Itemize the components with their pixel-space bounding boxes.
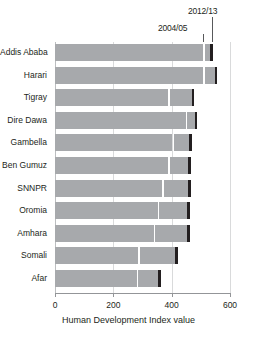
bar-segment-growth bbox=[170, 89, 192, 106]
category-label-harari: Harari bbox=[0, 67, 51, 84]
category-label-addis-ababa: Addis Ababa bbox=[0, 44, 51, 61]
bar-segment-growth bbox=[170, 157, 188, 174]
bar-segment-growth bbox=[155, 225, 187, 242]
bar-segment-2004-05 bbox=[55, 225, 154, 242]
x-tick-label-400: 400 bbox=[165, 300, 179, 310]
bar-endcap-2012-13 bbox=[189, 134, 192, 151]
series-callout-2004-05: 2004/05 bbox=[158, 24, 187, 33]
x-axis-line bbox=[55, 293, 231, 294]
bar-group bbox=[55, 157, 230, 174]
bar-segment-2004-05 bbox=[55, 89, 168, 106]
category-label-dire-dawa: Dire Dawa bbox=[0, 112, 51, 129]
bar-endcap-2012-13 bbox=[192, 89, 195, 106]
bar-endcap-2012-13 bbox=[210, 44, 213, 61]
x-tick-label-0: 0 bbox=[53, 300, 58, 310]
bar-group bbox=[55, 44, 230, 61]
bar-segment-2004-05 bbox=[55, 67, 203, 84]
x-tick-label-600: 600 bbox=[223, 300, 237, 310]
bar-segment-growth bbox=[187, 112, 195, 129]
bar-segment-growth bbox=[164, 180, 188, 197]
gridline-600 bbox=[230, 42, 231, 293]
x-tick-200 bbox=[113, 293, 114, 297]
bar-group bbox=[55, 270, 230, 287]
series-callout-2004-05-leader-line bbox=[203, 34, 204, 42]
bar-segment-2004-05 bbox=[55, 134, 172, 151]
bar-group bbox=[55, 112, 230, 129]
x-tick-400 bbox=[172, 293, 173, 297]
x-tick-0 bbox=[55, 293, 56, 297]
category-label-tigray: Tigray bbox=[0, 89, 51, 106]
bar-endcap-2012-13 bbox=[215, 67, 218, 84]
x-tick-label-200: 200 bbox=[106, 300, 120, 310]
category-label-snnpr: SNNPR bbox=[0, 180, 51, 197]
bar-group bbox=[55, 180, 230, 197]
category-label-ben-gumuz: Ben Gumuz bbox=[0, 157, 51, 174]
bar-endcap-2012-13 bbox=[188, 180, 191, 197]
bar-endcap-2012-13 bbox=[188, 157, 191, 174]
bar-group bbox=[55, 67, 230, 84]
category-label-afar: Afar bbox=[0, 270, 51, 287]
bar-segment-growth bbox=[205, 67, 215, 84]
bar-segment-2004-05 bbox=[55, 247, 138, 264]
bar-segment-2004-05 bbox=[55, 180, 162, 197]
bar-group bbox=[55, 247, 230, 264]
category-label-oromia: Oromia bbox=[0, 202, 51, 219]
bar-segment-2004-05 bbox=[55, 270, 137, 287]
series-callout-2012-13: 2012/13 bbox=[188, 7, 217, 16]
bar-endcap-2012-13 bbox=[187, 202, 190, 219]
bar-endcap-2012-13 bbox=[158, 270, 161, 287]
bar-group bbox=[55, 225, 230, 242]
x-tick-600 bbox=[230, 293, 231, 297]
bar-group bbox=[55, 134, 230, 151]
bar-segment-growth bbox=[159, 202, 187, 219]
x-axis-title: Human Development Index value bbox=[0, 315, 257, 325]
bar-segment-2004-05 bbox=[55, 44, 203, 61]
bar-segment-2004-05 bbox=[55, 112, 186, 129]
series-callout-2012-13-leader-line bbox=[212, 17, 213, 42]
hdi-bar-chart: 2012/13 2004/05 Addis AbabaHarariTigrayD… bbox=[0, 0, 257, 349]
bar-segment-2004-05 bbox=[55, 202, 158, 219]
plot-area bbox=[55, 42, 230, 293]
category-label-amhara: Amhara bbox=[0, 225, 51, 242]
bar-segment-growth bbox=[138, 270, 158, 287]
bar-segment-2004-05 bbox=[55, 157, 168, 174]
category-label-gambella: Gambella bbox=[0, 134, 51, 151]
bar-endcap-2012-13 bbox=[187, 225, 190, 242]
bar-segment-growth bbox=[174, 134, 189, 151]
bar-group bbox=[55, 202, 230, 219]
bar-endcap-2012-13 bbox=[195, 112, 198, 129]
bar-group bbox=[55, 89, 230, 106]
bar-segment-growth bbox=[140, 247, 175, 264]
category-label-somali: Somali bbox=[0, 247, 51, 264]
bar-endcap-2012-13 bbox=[175, 247, 178, 264]
